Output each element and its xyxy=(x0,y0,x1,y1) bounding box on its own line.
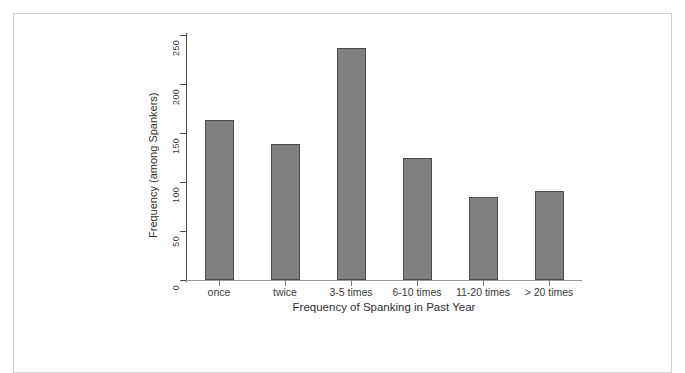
y-tick-mark xyxy=(180,280,186,281)
x-axis-title: Frequency of Spanking in Past Year xyxy=(186,301,582,313)
x-tick-label: > 20 times xyxy=(525,286,574,298)
bar xyxy=(271,144,300,280)
x-tick-label: 3-5 times xyxy=(329,286,372,298)
y-tick-label: 0 xyxy=(171,285,181,290)
x-tick-label: 6-10 times xyxy=(392,286,441,298)
y-tick-mark xyxy=(180,182,186,183)
y-tick-label: 50 xyxy=(171,236,181,247)
x-tick-label: once xyxy=(208,286,231,298)
bar xyxy=(337,48,366,280)
bar xyxy=(535,191,564,280)
y-tick-mark xyxy=(180,231,186,232)
bar xyxy=(205,120,234,280)
x-axis-line xyxy=(186,280,582,281)
bar xyxy=(469,197,498,280)
y-tick-label: 100 xyxy=(171,187,181,203)
y-tick-label: 250 xyxy=(171,40,181,56)
bar xyxy=(403,158,432,280)
y-tick-mark xyxy=(180,35,186,36)
x-tick-label: 11-20 times xyxy=(456,286,510,298)
y-tick-label: 150 xyxy=(171,138,181,154)
y-tick-mark xyxy=(180,84,186,85)
y-axis-line xyxy=(186,33,187,282)
y-tick-mark xyxy=(180,133,186,134)
y-axis-title: Frequency (among Spankers) xyxy=(144,80,162,250)
y-tick-label: 200 xyxy=(171,89,181,105)
x-tick-label: twice xyxy=(273,286,297,298)
